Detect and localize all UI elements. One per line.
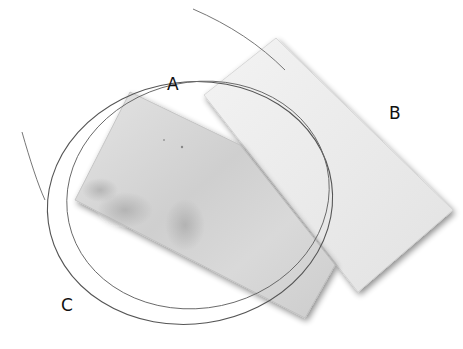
label-b: B <box>389 105 401 122</box>
label-c: C <box>61 297 73 314</box>
label-a: A <box>167 76 179 93</box>
